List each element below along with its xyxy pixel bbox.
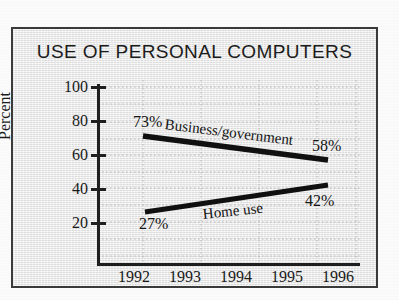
x-tick-label-1992: 1992 bbox=[118, 268, 150, 286]
y-axis-line bbox=[97, 84, 100, 266]
y-tick-60 bbox=[91, 154, 106, 157]
x-tick-label-1995: 1995 bbox=[271, 268, 303, 286]
y-tick-80 bbox=[91, 120, 106, 123]
y-axis-title: Percent bbox=[0, 92, 14, 140]
y-tick-20 bbox=[91, 222, 106, 225]
x-tick-label-1996: 1996 bbox=[322, 268, 354, 286]
value-label-home-1992: 27% bbox=[139, 215, 168, 233]
y-tick-40 bbox=[91, 188, 106, 191]
plot-area bbox=[98, 80, 360, 266]
y-tick-label-20: 20 bbox=[42, 215, 88, 231]
y-tick-label-80: 80 bbox=[42, 113, 88, 129]
data-lines bbox=[98, 80, 360, 266]
x-tick-label-1994: 1994 bbox=[220, 268, 252, 286]
x-axis-line bbox=[97, 263, 360, 266]
chart-title: USE OF PERSONAL COMPUTERS bbox=[11, 41, 378, 63]
value-label-business-1992: 73% bbox=[133, 113, 162, 131]
y-tick-100 bbox=[91, 86, 106, 89]
x-tick-label-1993: 1993 bbox=[169, 268, 201, 286]
y-tick-label-40: 40 bbox=[42, 181, 88, 197]
value-label-business-1996: 58% bbox=[312, 137, 341, 155]
y-tick-label-100: 100 bbox=[42, 79, 88, 95]
chart-image: 100 80 60 40 20 Percent USE OF PERSONAL … bbox=[0, 0, 399, 300]
value-label-home-1996: 42% bbox=[305, 192, 334, 210]
y-tick-label-60: 60 bbox=[42, 147, 88, 163]
x-tick-labels: 1992 1993 1994 1995 1996 bbox=[118, 268, 354, 286]
